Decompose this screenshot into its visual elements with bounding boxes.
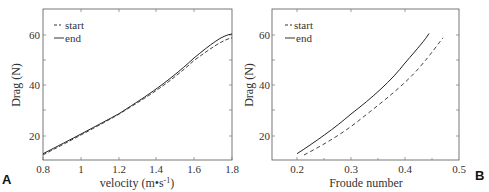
plot-a-x-tick-labels: 0.8 1 1.2 1.4 1.6 1.8: [36, 163, 239, 175]
y-tick-label: 40: [29, 79, 41, 91]
panel-b-letter: B: [475, 168, 484, 183]
plot-a-end-curve: [43, 34, 232, 154]
figure: 0.8 1 1.2 1.4 1.6 1.8 20 40 60 velocity …: [0, 0, 489, 192]
plot-b-start-curve: [304, 38, 443, 155]
plot-b-y-tick-labels: 20 40 60: [259, 29, 271, 142]
panel-a: 0.8 1 1.2 1.4 1.6 1.8 20 40 60 velocity …: [2, 9, 239, 190]
y-tick-label: 60: [259, 29, 271, 41]
y-tick-label: 20: [29, 130, 41, 142]
plot-b-legend: start end: [285, 19, 313, 44]
x-tick-label: 1: [78, 163, 84, 175]
x-tick-label: 0.8: [36, 163, 50, 175]
y-tick-label: 20: [259, 130, 271, 142]
x-tick-label: 0.2: [290, 163, 304, 175]
plot-b-end-curve: [297, 34, 429, 154]
panel-b: 0.2 0.3 0.4 0.5 20 40 60 Froude number D…: [242, 9, 484, 190]
x-tick-label: 1.4: [149, 163, 163, 175]
plot-a-legend: start end: [54, 19, 84, 44]
x-tick-label: 1.2: [112, 163, 126, 175]
plot-b-x-axis-label: Froude number: [329, 176, 403, 190]
x-tick-label: 0.4: [398, 163, 412, 175]
plot-a-start-curve: [43, 38, 232, 155]
legend-end-label: end: [65, 32, 81, 44]
legend-start-label: start: [65, 19, 84, 31]
plot-b-x-tick-labels: 0.2 0.3 0.4 0.5: [290, 163, 466, 175]
plot-b-y-axis-label: Drag (N): [242, 63, 256, 107]
plot-a-y-axis-label: Drag (N): [9, 63, 23, 107]
y-tick-label: 40: [259, 79, 271, 91]
x-tick-label: 0.3: [344, 163, 358, 175]
x-tick-label: 0.5: [452, 163, 466, 175]
legend-start-label: start: [294, 19, 313, 31]
plot-a-y-tick-labels: 20 40 60: [29, 29, 41, 142]
y-tick-label: 60: [29, 29, 41, 41]
plot-a-x-axis-label: velocity (m•s-1): [100, 176, 175, 190]
panel-a-letter: A: [2, 172, 12, 187]
x-tick-label: 1.8: [225, 163, 239, 175]
x-tick-label: 1.6: [187, 163, 201, 175]
legend-end-label: end: [296, 32, 312, 44]
